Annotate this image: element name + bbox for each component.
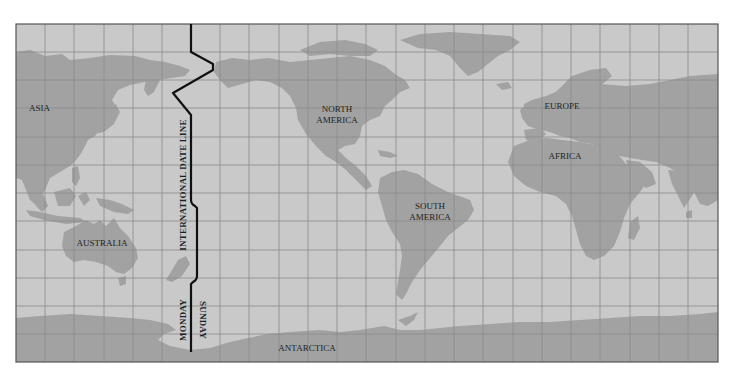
label-north-america-1: NORTH bbox=[322, 104, 353, 114]
monday-label: MONDAY bbox=[178, 299, 188, 341]
label-australia: AUSTRALIA bbox=[77, 238, 128, 248]
label-south-america-2: AMERICA bbox=[409, 212, 451, 222]
label-south-america-1: SOUTH bbox=[415, 201, 446, 211]
label-africa: AFRICA bbox=[548, 151, 582, 161]
world-map: ASIA NORTH AMERICA EUROPE AFRICA SOUTH A… bbox=[0, 0, 756, 388]
sunday-label: SUNDAY bbox=[198, 301, 208, 339]
label-north-america-2: AMERICA bbox=[316, 115, 358, 125]
date-line-label: INTERNATIONAL DATE LINE bbox=[178, 119, 188, 250]
label-antarctica: ANTARCTICA bbox=[278, 343, 336, 353]
label-europe: EUROPE bbox=[544, 101, 580, 111]
label-asia: ASIA bbox=[29, 103, 51, 113]
